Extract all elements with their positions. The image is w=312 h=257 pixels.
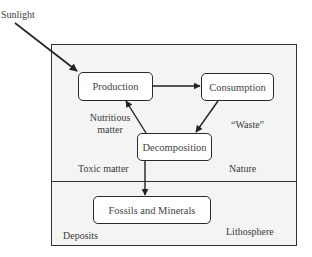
node-decomposition: Decomposition [137,133,212,161]
sunlight-label: Sunlight [1,9,35,21]
nature-lithosphere-divider [51,181,297,182]
waste-label: “Waste” [231,119,264,131]
node-consumption: Consumption [201,73,274,101]
nutritious-matter-label: Nutritious matter [80,112,140,136]
node-fossils-minerals: Fossils and Minerals [93,196,211,224]
nutritious-line2: matter [80,124,140,136]
node-production: Production [78,72,153,101]
deposits-region-label: Deposits [63,230,98,242]
nutritious-line1: Nutritious [80,112,140,124]
lithosphere-region-label: Lithosphere [226,226,274,238]
toxic-matter-label: Toxic matter [78,163,129,175]
nature-region-label: Nature [229,163,256,175]
